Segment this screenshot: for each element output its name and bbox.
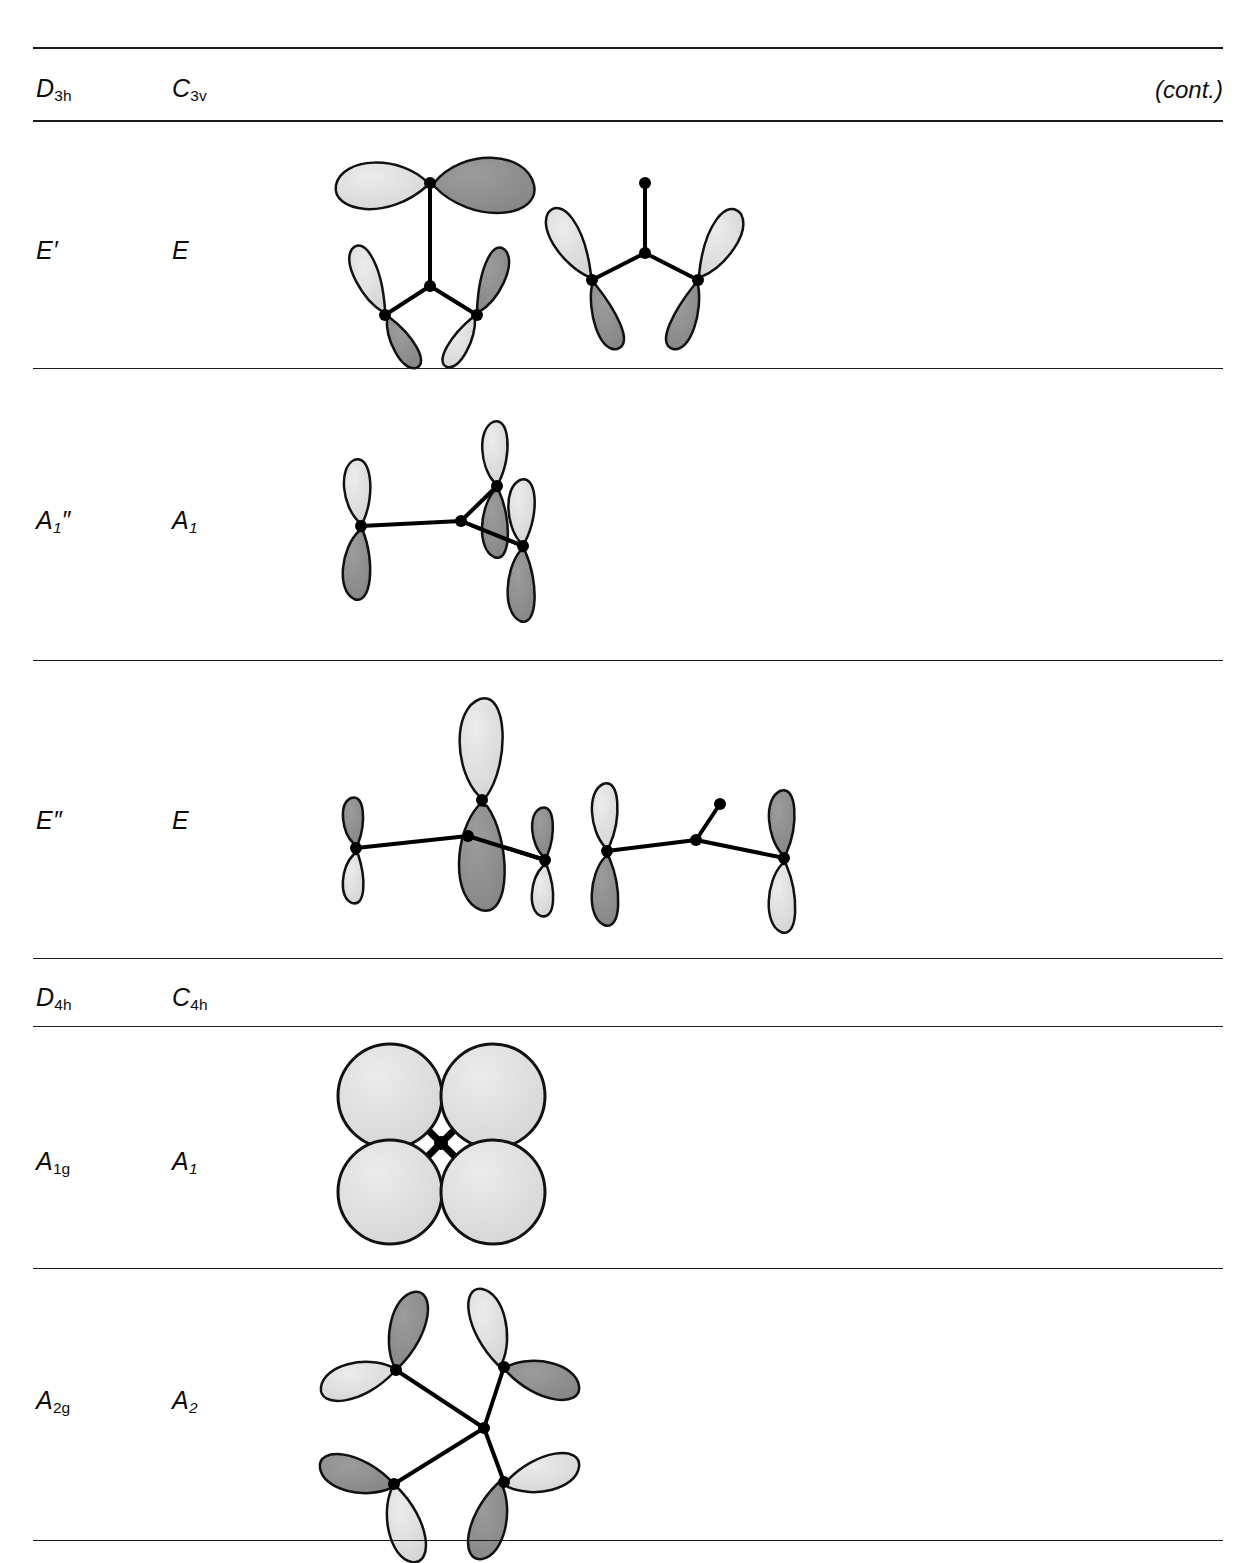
row-label-a1-doubleprime-c3v: A1 <box>172 506 198 537</box>
rule-after-e-prime <box>33 368 1223 369</box>
rule-top <box>33 47 1223 49</box>
row-label-e-doubleprime-d3h: E″ <box>36 806 61 835</box>
row-label-a1g-c4h: A1 <box>172 1147 198 1178</box>
header-c3v: C3v <box>172 74 207 105</box>
row-label-a2g-c4h: A2 <box>172 1386 198 1417</box>
rule-bottom <box>33 1540 1223 1541</box>
header-c4h: C4h <box>172 983 208 1014</box>
rule-after-a1g <box>33 1268 1223 1269</box>
diagram-e-doubleprime-b <box>572 772 842 937</box>
header-d4h: D4h <box>36 983 72 1014</box>
row-label-a1-doubleprime-d3h: A1″ <box>36 506 70 537</box>
row-label-a2g-d4h: A2g <box>36 1386 70 1417</box>
diagram-a1-doubleprime <box>330 418 630 628</box>
textbook-page: D3h C3v (cont.) E′ E <box>0 0 1255 1563</box>
row-label-e-prime-d3h: E′ <box>36 236 57 265</box>
row-label-e-doubleprime-c3v: E <box>172 806 189 835</box>
rule-under-header-1 <box>33 120 1223 122</box>
continuation-note: (cont.) <box>1155 76 1223 104</box>
diagram-a2g <box>332 1282 632 1522</box>
rule-after-e-doubleprime <box>33 958 1223 959</box>
row-label-a1g-d4h: A1g <box>36 1147 70 1178</box>
diagram-e-prime-b <box>535 163 795 363</box>
rule-under-header-2 <box>33 1026 1223 1027</box>
diagram-a1g <box>338 1038 568 1248</box>
rule-after-a1-doubleprime <box>33 660 1223 661</box>
row-label-e-prime-c3v: E <box>172 236 189 265</box>
header-d3h: D3h <box>36 74 72 105</box>
